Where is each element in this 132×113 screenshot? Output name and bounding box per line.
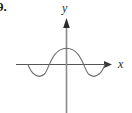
x-axis-label: x (118, 57, 123, 72)
arrow-up-icon (63, 18, 70, 28)
y-axis-label: y (62, 1, 67, 16)
coordinate-plot (0, 0, 132, 113)
math-figure-panel: 9. y x (0, 0, 132, 113)
